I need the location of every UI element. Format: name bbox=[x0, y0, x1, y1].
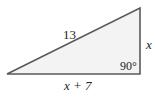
hypotenuse-label: 13 bbox=[63, 28, 76, 41]
horizontal-leg-label: x + 7 bbox=[64, 79, 92, 92]
right-triangle-diagram: 13 x 90° x + 7 bbox=[0, 0, 155, 101]
right-angle-label: 90° bbox=[120, 60, 137, 72]
vertical-leg-label: x bbox=[146, 38, 152, 51]
